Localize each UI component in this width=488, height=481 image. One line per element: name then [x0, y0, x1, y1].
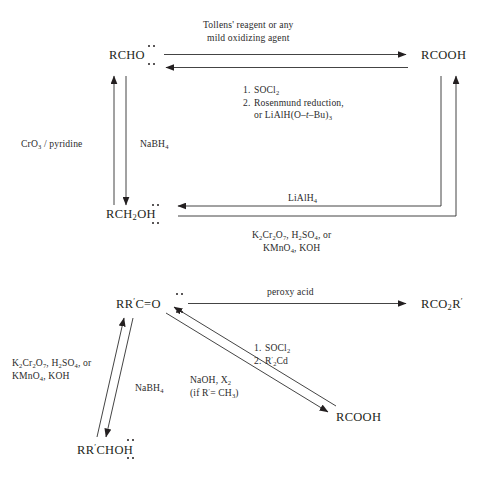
secondary-alcohol-oxygen: O — [114, 443, 123, 457]
species-carboxylic-acid-bottom: RCOOH — [336, 410, 381, 426]
lone-pair-dot — [153, 63, 155, 65]
lone-pair-dot — [127, 457, 129, 459]
rosenmund-step-2: 2.Rosenmund reduction, — [243, 97, 344, 109]
label-strong-oxidant-bottom: K2Cr2O7, H2SO4, or KMnO4, KOH — [12, 357, 91, 384]
lone-pair-dot — [132, 457, 134, 459]
step-number-1: 1. — [243, 84, 254, 96]
label-rosenmund-reduction: 1.SOCl2 2.Rosenmund reduction, or LiAlH(… — [243, 84, 344, 122]
step-number-2: 2. — [254, 355, 265, 367]
lone-pair-dot — [127, 439, 129, 441]
species-secondary-alcohol: RR′CHOH — [77, 442, 133, 458]
haloform-line-1: NaOH, X2 — [190, 374, 231, 385]
aldehyde-oxygen: O — [136, 48, 145, 62]
acylation-step-1: 1.SOCl2 — [254, 342, 290, 355]
label-acid-chloride-cadmium: 1.SOCl2 2.R′2Cd — [254, 342, 290, 368]
arrow-layer — [0, 0, 488, 481]
lone-pair-dot — [132, 439, 134, 441]
oxidant-line-2: KMnO4, KOH — [12, 370, 70, 381]
label-chromium-trioxide-pyridine: CrO3 / pyridine — [21, 138, 83, 151]
lone-pair-dot — [148, 63, 150, 65]
alcohol-oxygen: O — [137, 207, 146, 221]
step-number-2: 2. — [243, 97, 254, 109]
label-tollens-reagent: Tollens' reagent or any mild oxidizing a… — [203, 19, 294, 45]
lone-pair-dot — [176, 293, 178, 295]
lone-pair-dot — [181, 293, 183, 295]
tollens-line-2: mild oxidizing agent — [207, 32, 289, 43]
lone-pair-dot — [152, 222, 154, 224]
species-primary-alcohol: RCH2OH — [106, 207, 156, 223]
label-sodium-borohydride-top: NaBH4 — [140, 138, 169, 151]
ketone-oxygen: O — [151, 297, 160, 311]
reaction-scheme-diagram: Tollens' reagent or any mild oxidizing a… — [0, 0, 488, 481]
oxidant-line-2: KMnO4, KOH — [263, 242, 321, 253]
lone-pair-dot — [157, 204, 159, 206]
rosenmund-step-2-text: Rosenmund reduction, — [254, 97, 344, 108]
lone-pair-dot — [153, 45, 155, 47]
label-haloform-reaction: NaOH, X2 (if R′= CH3) — [190, 374, 239, 401]
lone-pair-dot — [157, 222, 159, 224]
arrow-secondary-alcohol-to-ketone — [97, 318, 124, 437]
label-sodium-borohydride-bottom: NaBH4 — [135, 382, 164, 395]
haloform-line-2: (if R′= CH3) — [190, 387, 239, 398]
species-ester: RCO2R′ — [421, 296, 463, 312]
rosenmund-steps: 1.SOCl2 2.Rosenmund reduction, or LiAlH(… — [243, 84, 344, 122]
tollens-line-1: Tollens' reagent or any — [203, 19, 294, 30]
rosenmund-alt-reagent: or LiAlH(O–t–Bu)3 — [243, 109, 344, 122]
species-aldehyde: RCHO — [109, 48, 145, 64]
oxidant-line-1: K2Cr2O7, H2SO4, or — [252, 229, 331, 240]
acylation-steps: 1.SOCl2 2.R′2Cd — [254, 342, 290, 368]
acylation-step-2: 2.R′2Cd — [254, 355, 290, 368]
step-number-1: 1. — [254, 342, 265, 354]
label-lithium-aluminium-hydride: LiAlH4 — [288, 192, 317, 205]
species-ketone: RR′C=O — [116, 296, 161, 312]
oxidant-line-1: K2Cr2O7, H2SO4, or — [12, 357, 91, 368]
arrow-ketone-to-secondary-alcohol — [106, 318, 133, 437]
rosenmund-step-1: 1.SOCl2 — [243, 84, 344, 97]
label-peroxy-acid: peroxy acid — [267, 286, 314, 298]
lone-pair-dot — [181, 311, 183, 313]
lone-pair-dot — [148, 45, 150, 47]
lone-pair-dot — [152, 204, 154, 206]
label-strong-oxidant-top: K2Cr2O7, H2SO4, or KMnO4, KOH — [252, 229, 331, 256]
lone-pair-dot — [176, 311, 178, 313]
species-carboxylic-acid-top: RCOOH — [421, 48, 466, 64]
